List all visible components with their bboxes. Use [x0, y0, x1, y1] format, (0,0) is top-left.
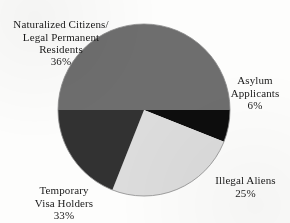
pie-label-asylum-applicants-percent: 6%: [222, 99, 288, 111]
pie-label-temporary-visa-holders: Temporary Visa Holders 33%: [14, 172, 114, 223]
pie-label-naturalized-citizens-percent: 36%: [2, 55, 120, 67]
pie-chart-figure: Naturalized Citizens/ Legal Permanent Re…: [0, 0, 290, 223]
pie-label-illegal-aliens-percent: 25%: [203, 187, 288, 199]
pie-label-asylum-applicants: Asylum Applicants 6%: [222, 62, 288, 124]
pie-label-illegal-aliens: Illegal Aliens 25%: [203, 162, 288, 211]
pie-label-temporary-visa-holders-percent: 33%: [14, 209, 114, 221]
pie-label-asylum-applicants-text: Asylum Applicants: [231, 74, 280, 98]
pie-label-temporary-visa-holders-text: Temporary Visa Holders: [35, 184, 93, 208]
pie-label-illegal-aliens-text: Illegal Aliens: [215, 174, 275, 186]
pie-label-naturalized-citizens: Naturalized Citizens/ Legal Permanent Re…: [2, 6, 120, 80]
pie-label-naturalized-citizens-text: Naturalized Citizens/ Legal Permanent Re…: [13, 18, 108, 55]
